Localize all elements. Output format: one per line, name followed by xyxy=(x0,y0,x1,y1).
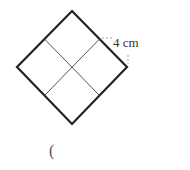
answer-bracket: ( xyxy=(49,143,54,159)
dimension-label: 4 cm xyxy=(113,36,139,49)
diagram-canvas xyxy=(0,0,190,170)
